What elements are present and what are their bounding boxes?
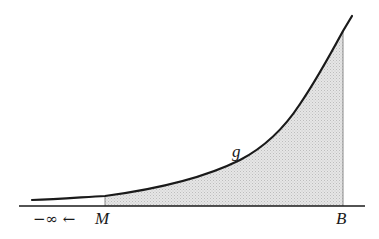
right-bound-label-b: B [336,209,347,228]
shaded-area-region [105,31,343,206]
neg-infinity-arrow-label: −∞ ← [33,210,75,228]
area-under-curve-figure: g −∞ ← M B [0,0,379,239]
diagram-canvas: g −∞ ← M B [0,0,379,239]
left-bound-label-m: M [94,209,110,228]
curve-label-g: g [232,142,241,161]
